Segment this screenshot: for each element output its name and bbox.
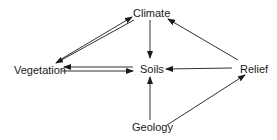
arrow-vegetation-to-climate — [58, 17, 132, 61]
arrow-relief-to-soils — [166, 68, 232, 69]
arrow-geology-to-relief — [167, 75, 245, 125]
node-relief: Relief — [240, 63, 268, 75]
node-geology: Geology — [132, 121, 173, 133]
node-vegetation: Vegetation — [14, 64, 66, 76]
arrow-relief-to-climate — [168, 19, 238, 60]
arrow-climate-to-vegetation — [56, 20, 134, 63]
node-climate: Climate — [133, 7, 170, 19]
node-soils: Soils — [140, 63, 164, 75]
